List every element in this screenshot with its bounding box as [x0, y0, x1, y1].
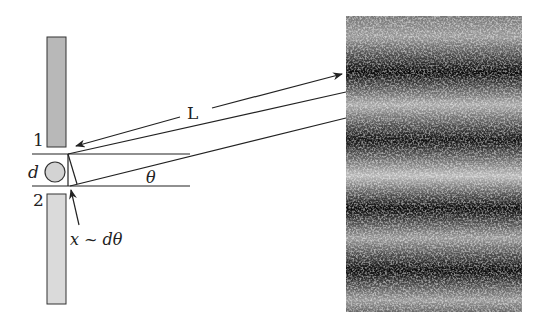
path-difference-arrow — [71, 190, 79, 225]
lower-barrier — [47, 194, 66, 304]
path-difference-label: x ~ dθ — [70, 230, 123, 249]
distance-arrow-left — [76, 117, 180, 146]
separation-label: d — [28, 162, 39, 182]
double-slit-diagram: 1 2 d L θ x ~ dθ — [0, 0, 551, 328]
interference-screen — [346, 16, 522, 312]
angle-label: θ — [146, 168, 156, 187]
path-difference-segment — [68, 154, 77, 184]
distance-arrow-right — [212, 74, 342, 108]
slit-2-label: 2 — [33, 190, 44, 210]
ray-from-slit-2 — [70, 118, 346, 186]
ray-from-slit-1 — [68, 92, 346, 154]
upper-barrier — [47, 37, 66, 147]
slit-1-label: 1 — [33, 130, 44, 150]
distance-label: L — [187, 103, 198, 123]
particle-circle — [45, 162, 65, 182]
